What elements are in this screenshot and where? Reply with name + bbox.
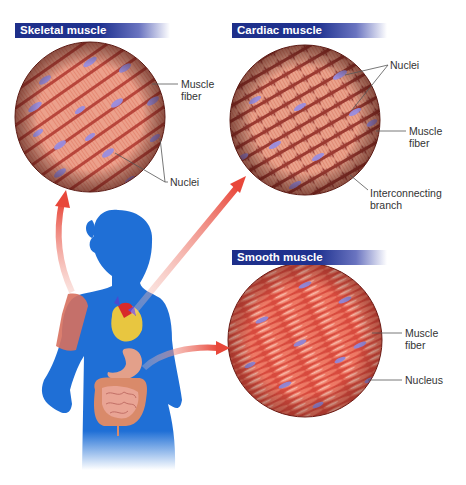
muscle-diagram-canvas xyxy=(0,0,466,485)
label-line: Muscle xyxy=(181,78,214,90)
skeletal-muscle-header: Skeletal muscle xyxy=(15,23,170,38)
cardiac-nuclei-label: Nuclei xyxy=(390,59,419,71)
label-line: Muscle xyxy=(405,327,438,339)
skeletal-muscle-fiber-label: Muscle fiber xyxy=(181,78,214,102)
cardiac-muscle-magnified-view xyxy=(225,40,406,200)
label-line: fiber xyxy=(405,339,438,351)
smooth-muscle-magnified-view xyxy=(225,260,402,425)
label-line: Muscle xyxy=(409,125,442,137)
cardiac-interconnecting-branch-label: Interconnecting branch xyxy=(370,187,442,211)
skeletal-muscle-magnified-view xyxy=(10,40,178,200)
cardiac-muscle-fiber-label: Muscle fiber xyxy=(409,125,442,149)
label-line: fiber xyxy=(409,137,442,149)
smooth-muscle-fiber-label: Muscle fiber xyxy=(405,327,438,351)
cardiac-muscle-header: Cardiac muscle xyxy=(232,23,387,38)
label-line: fiber xyxy=(181,90,214,102)
skeletal-nuclei-label: Nuclei xyxy=(170,176,199,188)
human-body-silhouette xyxy=(42,210,182,470)
smooth-muscle-header: Smooth muscle xyxy=(232,250,387,265)
smooth-nucleus-label: Nucleus xyxy=(405,374,443,386)
label-line: Interconnecting xyxy=(370,187,442,199)
label-line: branch xyxy=(370,199,442,211)
